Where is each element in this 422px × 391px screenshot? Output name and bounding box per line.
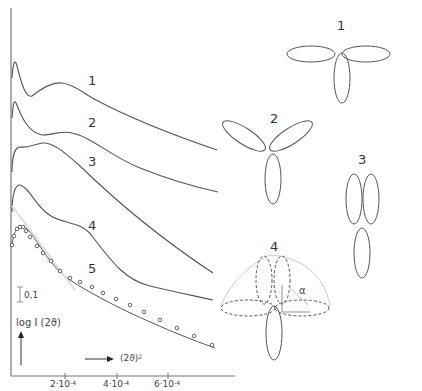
figure-canvas <box>0 0 422 391</box>
scale-bar-label: 0,1 <box>24 291 38 300</box>
model-label-2: 2 <box>270 112 278 125</box>
curve-2 <box>12 102 218 192</box>
x-tick-label-3: 6·10-4 <box>154 380 180 389</box>
model-label-3: 3 <box>358 153 366 166</box>
curve-1 <box>12 62 217 150</box>
guide-line <box>12 206 75 290</box>
curve-label-3: 3 <box>88 155 96 168</box>
model-2 <box>219 116 317 204</box>
model-label-4: 4 <box>270 240 278 253</box>
curve-5 <box>12 226 215 348</box>
x-axis-label: (2ϑ)2 <box>120 354 142 363</box>
model-1 <box>287 46 390 103</box>
x-axis-arrow-icon <box>85 356 114 362</box>
curve-label-2: 2 <box>88 116 96 129</box>
curve-label-4: 4 <box>88 219 96 232</box>
model-4 <box>221 255 330 360</box>
x-tick-label-2: 4·10-4 <box>103 380 129 389</box>
x-tick-label-1: 2·10-4 <box>50 380 76 389</box>
curve-label-1: 1 <box>88 74 96 87</box>
scale-bar <box>17 287 23 302</box>
curve-label-5: 5 <box>88 262 96 275</box>
curve-4 <box>12 185 213 300</box>
y-axis-arrow-icon <box>18 331 24 365</box>
y-axis-label: log I (2ϑ) <box>16 318 61 328</box>
model-3 <box>346 174 379 278</box>
angle-label: α <box>299 286 306 296</box>
model-label-1: 1 <box>337 19 345 32</box>
